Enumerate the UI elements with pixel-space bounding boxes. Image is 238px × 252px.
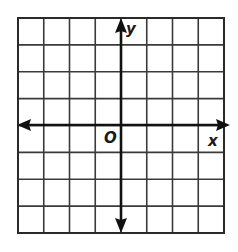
- coordinate-plane: y x O: [0, 0, 238, 252]
- x-axis-left-arrow-icon: [17, 119, 31, 131]
- origin-label: O: [104, 129, 117, 147]
- y-axis-down-arrow-icon: [115, 218, 127, 233]
- x-axis-label: x: [207, 132, 219, 150]
- y-axis-label: y: [126, 20, 137, 38]
